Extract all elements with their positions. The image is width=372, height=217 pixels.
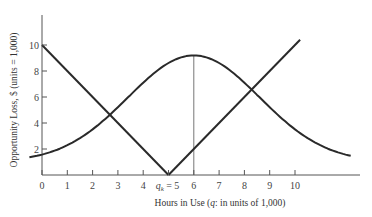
x-tick-label: 6 (191, 180, 196, 191)
y-axis-label: Opportunity Loss, $ (units = 1,000) (9, 33, 20, 168)
right-loss-line (169, 40, 301, 175)
x-tick-label: 0 (40, 180, 45, 191)
x-tick-label: 9 (267, 180, 272, 191)
x-tick-label-qk: qk = 5 (156, 180, 180, 193)
x-tick-label: 4 (141, 180, 146, 191)
y-tick-label: 8 (34, 66, 39, 77)
y-tick-label: 2 (34, 144, 39, 155)
left-loss-line (42, 45, 169, 175)
x-tick-label: 2 (90, 180, 95, 191)
series-layer (29, 40, 350, 175)
x-tick-label: 3 (115, 180, 120, 191)
x-tick-label: 1 (65, 180, 70, 191)
bell-curve-line (29, 55, 350, 157)
y-tick-label: 4 (34, 118, 39, 129)
y-tick-label: 6 (34, 92, 39, 103)
x-tick-label: 8 (242, 180, 247, 191)
opportunity-loss-chart: 01234qk = 5678910246810 Opportunity Loss… (0, 0, 372, 217)
x-axis-label: Hours in Use (q: in units of 1,000) (155, 198, 286, 209)
x-tick-label: 7 (217, 180, 222, 191)
y-tick-label: 10 (29, 40, 39, 51)
x-tick-label: 10 (290, 180, 300, 191)
